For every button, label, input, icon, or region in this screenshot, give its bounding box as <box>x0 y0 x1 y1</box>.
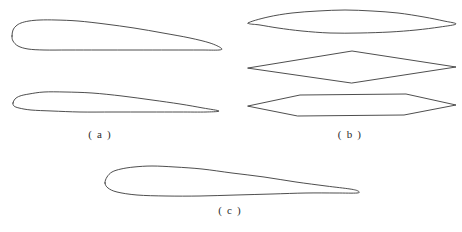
figure-label-b: ( b ) <box>314 128 386 140</box>
airfoil-figure: ( a ) ( b ) ( c ) <box>0 0 462 232</box>
airfoil-diagram-canvas <box>0 0 462 232</box>
figure-label-a: ( a ) <box>64 128 136 140</box>
figure-label-c: ( c ) <box>194 204 266 216</box>
figure-background <box>0 0 462 232</box>
